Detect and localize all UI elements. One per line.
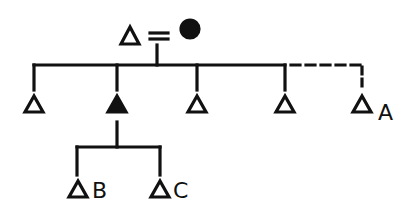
ego-filled-triangle-icon [108,96,126,112]
label-c: C [173,178,188,203]
child-1-triangle-icon [25,96,43,112]
father-triangle-icon [121,27,139,44]
child-5-triangle-icon [353,96,371,112]
mother-circle-icon [181,20,199,38]
grandchild-c-triangle-icon [151,181,169,197]
child-4-triangle-icon [276,96,294,112]
kinship-diagram: A B C [0,0,420,215]
grandchild-b-triangle-icon [69,181,87,197]
label-a: A [378,100,393,125]
child-3-triangle-icon [188,96,206,112]
label-b: B [92,178,107,203]
